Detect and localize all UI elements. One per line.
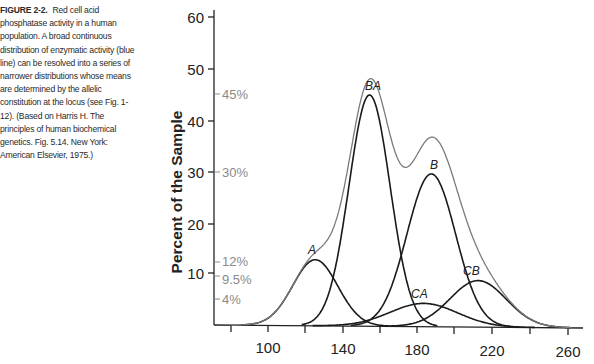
- percent-labels: 45% 30% 12% 9.5% 4%: [222, 87, 252, 307]
- distribution-curves: [231, 79, 572, 328]
- x-tick-180: 180: [404, 341, 429, 358]
- y-tick-60: 60: [187, 9, 204, 26]
- pct-9-5: 9.5%: [222, 272, 252, 287]
- label-CA: CA: [411, 287, 428, 301]
- x-tick-labels: 100 140 180 220 260: [255, 339, 580, 360]
- y-tick-20: 20: [187, 216, 204, 233]
- curve-ca: [313, 303, 535, 327]
- chart: Percent of the Sample 60 50 40 30: [0, 0, 594, 364]
- label-B: B: [430, 158, 438, 172]
- y-tick-40: 40: [187, 113, 204, 130]
- pct-30: 30%: [222, 165, 248, 180]
- pct-12: 12%: [222, 254, 248, 269]
- y-tick-labels: 60 50 40 30 20 10: [187, 9, 204, 282]
- y-tick-50: 50: [187, 61, 204, 78]
- axes: [208, 10, 583, 335]
- pct-4: 4%: [222, 292, 241, 307]
- x-tick-140: 140: [330, 340, 355, 357]
- y-tick-10: 10: [187, 265, 204, 282]
- percent-ticks: [214, 94, 220, 299]
- pct-45: 45%: [222, 87, 248, 102]
- label-CB: CB: [463, 264, 480, 278]
- y-axis-label: Percent of the Sample: [168, 110, 185, 273]
- label-BA: BA: [365, 79, 381, 93]
- x-tick-220: 220: [479, 342, 504, 359]
- y-tick-30: 30: [187, 164, 204, 181]
- curve-a: [241, 260, 389, 326]
- label-A: A: [307, 243, 316, 257]
- x-tick-100: 100: [255, 339, 280, 356]
- curve-labels: A BA B CA CB: [307, 79, 480, 301]
- curve-envelope: [231, 79, 572, 328]
- x-tick-260: 260: [555, 343, 580, 360]
